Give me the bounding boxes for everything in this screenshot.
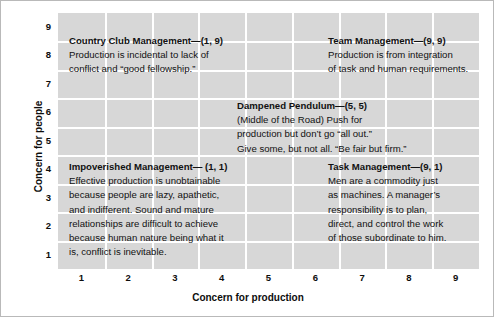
annotation-line: production but don’t go “all out.” — [237, 127, 407, 141]
annotation-title: Dampened Pendulum—(5, 5) — [237, 99, 407, 113]
x-tick-8: 8 — [385, 273, 432, 283]
annotation-task-management: Task Management—(9, 1) Men are a commodi… — [328, 160, 446, 245]
y-tick-9: 9 — [37, 22, 51, 32]
annotation-line: Production is incidental to lack of — [69, 48, 223, 62]
annotation-line: Effective production is unobtainable — [69, 174, 227, 188]
annotation-title: Country Club Management—(1, 9) — [69, 34, 223, 48]
annotation-line: and indifferent. Sound and mature — [69, 203, 227, 217]
annotation-line: of task and human requirements. — [328, 62, 468, 76]
annotation-impoverished-management: Impoverished Management— (1, 1) Effectiv… — [69, 160, 227, 259]
x-tick-6: 6 — [292, 273, 339, 283]
y-tick-1: 1 — [37, 250, 51, 260]
annotation-line: Give some, but not all. “Be fair but fir… — [237, 142, 407, 156]
annotation-line: because people are lazy, apathetic, — [69, 188, 227, 202]
annotation-line: responsibility is to plan, — [328, 203, 446, 217]
annotation-line: because human nature being what it — [69, 231, 227, 245]
annotation-line: Men are a commodity just — [328, 174, 446, 188]
managerial-grid-figure: 9 8 7 6 5 4 3 2 1 1 2 3 4 5 6 7 8 9 Conc… — [0, 0, 494, 317]
x-tick-7: 7 — [339, 273, 386, 283]
annotation-line: is, conflict is inevitable. — [69, 245, 227, 259]
x-axis-label: Concern for production — [1, 292, 494, 303]
annotation-line: Production is from integration — [328, 48, 468, 62]
annotation-line: direct, and control the work — [328, 217, 446, 231]
annotation-title: Team Management—(9, 9) — [328, 34, 468, 48]
annotation-line: as machines. A manager’s — [328, 188, 446, 202]
x-tick-9: 9 — [432, 273, 479, 283]
annotation-line: (Middle of the Road) Push for — [237, 113, 407, 127]
annotation-dampened-pendulum: Dampened Pendulum—(5, 5) (Middle of the … — [237, 99, 407, 156]
annotation-country-club-management: Country Club Management—(1, 9) Productio… — [69, 34, 223, 77]
x-tick-1: 1 — [58, 273, 105, 283]
annotation-title: Task Management—(9, 1) — [328, 160, 446, 174]
annotation-title: Impoverished Management— (1, 1) — [69, 160, 227, 174]
annotation-line: of those subordinate to him. — [328, 231, 446, 245]
annotation-line: relationships are difficult to achieve — [69, 217, 227, 231]
x-tick-4: 4 — [198, 273, 245, 283]
x-tick-3: 3 — [152, 273, 199, 283]
x-tick-2: 2 — [105, 273, 152, 283]
y-axis-label: Concern for people — [33, 67, 44, 227]
y-tick-8: 8 — [37, 50, 51, 60]
annotation-team-management: Team Management—(9, 9) Production is fro… — [328, 34, 468, 77]
x-tick-5: 5 — [245, 273, 292, 283]
annotation-line: conflict and “good fellowship.” — [69, 62, 223, 76]
